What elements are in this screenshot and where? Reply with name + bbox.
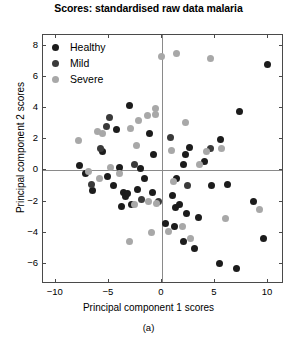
data-point [153, 200, 160, 207]
data-point [176, 201, 183, 208]
legend-marker-icon-severe [52, 76, 59, 83]
data-point [222, 215, 229, 222]
legend-item-healthy: Healthy [52, 39, 106, 55]
data-point [207, 55, 214, 62]
data-point [180, 238, 187, 245]
legend-marker-icon-healthy [52, 44, 59, 51]
data-point [133, 142, 140, 149]
data-point [94, 128, 101, 135]
data-point [126, 102, 133, 109]
data-point [182, 119, 189, 126]
data-point [135, 117, 142, 124]
x-axis-title: Principal component 1 scores [0, 302, 297, 313]
x-axis-tick [214, 279, 215, 283]
data-point [106, 114, 113, 121]
x-axis-tick-label: 10 [247, 286, 287, 297]
data-point [264, 61, 271, 68]
legend: Healthy Mild Severe [52, 39, 106, 87]
data-point [182, 151, 189, 158]
legend-marker-icon-mild [52, 60, 59, 67]
data-point [127, 125, 134, 132]
data-point [171, 223, 178, 230]
x-axis-tick [108, 279, 109, 283]
y-axis-tick [279, 76, 283, 77]
data-point [180, 161, 187, 168]
x-axis-tick [55, 34, 56, 38]
x-axis-tick-label: 0 [141, 286, 181, 297]
data-point [165, 228, 172, 235]
data-point [103, 123, 110, 130]
data-point [169, 192, 176, 199]
scatter-plot-figure: Scores: standardised raw data malaria −6… [0, 0, 297, 340]
y-axis-tick [42, 107, 46, 108]
y-axis-tick-label-text: −6 [12, 257, 38, 268]
data-point [196, 161, 203, 168]
data-point [152, 105, 159, 112]
data-point [250, 198, 257, 205]
data-point [168, 147, 175, 154]
x-axis-tick [55, 279, 56, 283]
y-axis-tick [279, 232, 283, 233]
data-point [162, 220, 169, 227]
y-axis-tick [42, 232, 46, 233]
data-point [195, 214, 202, 221]
x-axis-tick [161, 279, 162, 283]
legend-item-mild: Mild [52, 55, 106, 71]
y-axis-tick [279, 107, 283, 108]
y-axis-tick [42, 201, 46, 202]
x-axis-tick-label: 5 [194, 286, 234, 297]
panel-caption: (a) [0, 322, 297, 333]
data-point [191, 245, 198, 252]
y-axis-tick [42, 169, 46, 170]
data-point [134, 186, 141, 193]
x-axis-tick-label: −5 [88, 286, 128, 297]
data-point [104, 173, 111, 180]
y-axis-tick [279, 169, 283, 170]
data-point [141, 175, 148, 182]
data-point [75, 137, 82, 144]
data-point [131, 201, 138, 208]
data-point [148, 229, 155, 236]
data-point [116, 170, 123, 177]
data-point [85, 168, 92, 175]
data-point [233, 265, 240, 272]
x-axis-tick-label: −10 [35, 286, 75, 297]
data-point [124, 190, 131, 197]
data-point [76, 162, 83, 169]
legend-item-severe: Severe [52, 71, 106, 87]
data-point [173, 50, 180, 57]
data-point [217, 136, 224, 143]
data-point [236, 108, 243, 115]
data-point [183, 210, 190, 217]
data-point [216, 260, 223, 267]
data-point [145, 198, 152, 205]
data-point [126, 238, 133, 245]
data-point [260, 235, 267, 242]
data-point [146, 130, 153, 137]
x-axis-tick [267, 34, 268, 38]
data-point [144, 112, 151, 119]
data-point [170, 178, 177, 185]
data-point [184, 182, 191, 189]
data-point [203, 148, 210, 155]
data-point [149, 189, 156, 196]
data-point [158, 53, 165, 60]
y-axis-tick [279, 45, 283, 46]
y-axis-title: Principal component 2 scores [15, 38, 26, 258]
data-point [89, 187, 96, 194]
y-axis-tick [42, 263, 46, 264]
data-point [256, 206, 263, 213]
y-axis-tick [42, 45, 46, 46]
data-point [187, 235, 194, 242]
data-point [97, 145, 104, 152]
legend-label-mild: Mild [70, 57, 89, 69]
y-axis-tick-label: −6 [12, 257, 38, 269]
legend-label-healthy: Healthy [70, 41, 106, 53]
data-point [179, 223, 186, 230]
chart-title: Scores: standardised raw data malaria [0, 2, 297, 14]
data-point [208, 182, 215, 189]
data-point [224, 181, 231, 188]
x-axis-tick [214, 34, 215, 38]
y-axis-tick [42, 138, 46, 139]
x-axis-tick [267, 279, 268, 283]
